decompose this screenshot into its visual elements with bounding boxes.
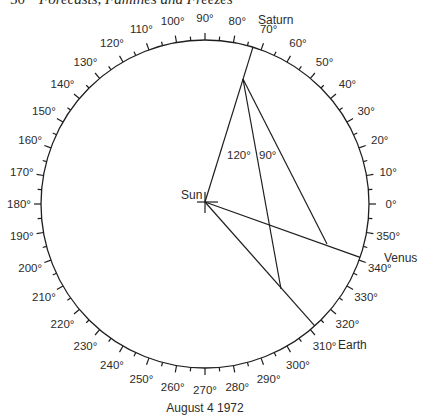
page-header: 50Forecasts, Famines and Freezes (10, 0, 233, 8)
minor-tick (67, 298, 70, 300)
major-tick (44, 260, 51, 262)
degree-label: 20° (371, 134, 388, 146)
minor-tick (162, 362, 163, 366)
minor-tick (299, 66, 301, 69)
diagram-labels: Sun Saturn Venus Earth 120° 90° August 4… (166, 13, 417, 415)
major-tick (331, 94, 336, 98)
major-tick (367, 174, 374, 175)
major-tick (175, 36, 176, 43)
major-tick (175, 366, 176, 373)
major-tick (147, 358, 149, 365)
minor-tick (109, 338, 111, 341)
degree-label: 120° (100, 37, 124, 49)
diagram-page: 50Forecasts, Famines and Freezes 0°10°20… (0, 0, 424, 417)
degree-label: 10° (379, 166, 396, 178)
major-tick (95, 73, 99, 78)
heliocentric-diagram: 0°10°20°30°40°50°60°70°80°90°100°110°120… (0, 0, 424, 417)
major-tick (347, 119, 353, 123)
degree-label: 40° (339, 78, 356, 90)
minor-tick (274, 353, 276, 357)
major-tick (147, 43, 149, 50)
major-tick (95, 330, 99, 335)
angle-label-90: 90° (259, 149, 276, 161)
degree-label: 150° (32, 105, 56, 117)
major-tick (310, 73, 314, 78)
degree-label: 320° (336, 318, 360, 330)
venus-label: Venus (384, 251, 417, 265)
minor-tick (299, 338, 301, 341)
minor-tick (354, 273, 358, 275)
sun-venus-line (205, 202, 360, 257)
degree-label: 130° (74, 56, 98, 68)
minor-tick (86, 85, 89, 88)
major-tick (37, 174, 44, 175)
angle-label-120: 120° (227, 149, 251, 161)
degree-label: 50° (316, 56, 333, 68)
minor-tick (86, 320, 89, 323)
major-tick (44, 146, 51, 148)
degree-label: 100° (161, 15, 185, 27)
degree-label: 80° (229, 15, 246, 27)
major-tick (359, 260, 366, 262)
major-tick (310, 330, 314, 335)
degree-label: 90° (196, 12, 213, 24)
degree-label: 330° (354, 291, 378, 303)
minor-tick (67, 108, 70, 110)
degree-label: 260° (161, 381, 185, 393)
degree-label: 250° (129, 373, 153, 385)
degree-label: 300° (286, 359, 310, 371)
major-tick (74, 94, 79, 98)
minor-tick (274, 52, 276, 56)
degree-label: 170° (10, 166, 34, 178)
sun-label: Sun (181, 188, 202, 202)
degree-label: 240° (100, 359, 124, 371)
major-tick (74, 309, 79, 313)
major-tick (57, 119, 63, 123)
degree-label: 290° (257, 373, 281, 385)
degree-label: 180° (7, 198, 31, 210)
minor-tick (354, 133, 358, 135)
page-number: 50 (10, 0, 25, 7)
major-tick (261, 43, 263, 50)
major-tick (347, 286, 353, 290)
minor-tick (53, 133, 57, 135)
degree-label: 160° (18, 134, 42, 146)
major-tick (233, 36, 234, 43)
major-tick (120, 346, 124, 352)
diagram-caption: August 4 1972 (166, 401, 244, 415)
construction-line-2 (243, 79, 327, 244)
degree-label: 350° (376, 230, 400, 242)
minor-tick (247, 42, 248, 46)
degree-label: 270° (193, 384, 217, 396)
degree-label: 0° (386, 198, 397, 210)
degree-label: 310° (313, 340, 337, 352)
sun-earth-line (205, 202, 315, 326)
major-tick (359, 146, 366, 148)
earth-label: Earth (338, 338, 367, 352)
degree-label: 200° (18, 262, 42, 274)
saturn-label: Saturn (258, 13, 293, 27)
book-title: Forecasts, Famines and Freezes (39, 0, 233, 7)
minor-tick (363, 246, 367, 247)
degree-label: 280° (225, 381, 249, 393)
planet-lines (205, 47, 360, 326)
major-tick (261, 358, 263, 365)
major-tick (287, 56, 291, 62)
major-tick (331, 309, 336, 313)
minor-tick (43, 246, 47, 247)
minor-tick (339, 298, 342, 300)
degree-label: 30° (357, 105, 374, 117)
major-tick (120, 56, 124, 62)
minor-tick (53, 273, 57, 275)
degree-label: 110° (130, 23, 153, 35)
major-tick (57, 286, 63, 290)
major-tick (367, 232, 374, 233)
minor-tick (339, 108, 342, 110)
minor-tick (43, 161, 47, 162)
degree-label: 210° (32, 291, 56, 303)
degree-label: 220° (51, 318, 75, 330)
minor-tick (134, 52, 136, 56)
degree-label: 230° (74, 340, 98, 352)
minor-tick (134, 353, 136, 357)
minor-tick (162, 42, 163, 46)
